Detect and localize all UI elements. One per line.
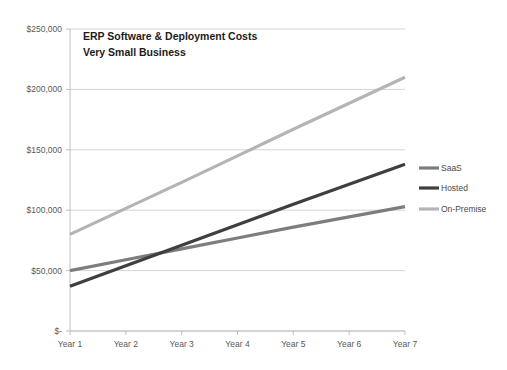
chart-title-block: ERP Software & Deployment Costs Very Sma… <box>83 30 257 58</box>
y-tick-marks-group <box>66 29 70 331</box>
y-axis-tick-label: $150,000 <box>27 145 63 155</box>
x-axis-tick-label: Year 6 <box>337 339 362 349</box>
x-axis-tick-label: Year 4 <box>225 339 250 349</box>
y-axis-tick-label: $250,000 <box>27 24 63 34</box>
line-chart: $-$50,000$100,000$150,000$200,000$250,00… <box>0 0 507 370</box>
x-axis-tick-labels: Year 1Year 2Year 3Year 4Year 5Year 6Year… <box>58 339 418 349</box>
series-line-on-premise <box>70 77 405 234</box>
legend-label-hosted: Hosted <box>441 183 468 193</box>
legend: SaaSHostedOn-Premise <box>419 163 487 214</box>
x-axis-tick-label: Year 1 <box>58 339 83 349</box>
chart-container: $-$50,000$100,000$150,000$200,000$250,00… <box>0 0 507 370</box>
gridlines-group <box>70 29 405 331</box>
y-axis-tick-labels: $-$50,000$100,000$150,000$200,000$250,00… <box>27 24 63 336</box>
chart-subtitle: Very Small Business <box>83 46 186 58</box>
y-axis-tick-label: $50,000 <box>31 266 62 276</box>
series-line-hosted <box>70 164 405 286</box>
series-group <box>70 77 405 286</box>
series-line-saas <box>70 207 405 271</box>
y-axis-tick-label: $- <box>54 326 62 336</box>
x-tick-marks-group <box>70 331 405 335</box>
legend-label-on-premise: On-Premise <box>441 204 487 214</box>
y-axis-tick-label: $100,000 <box>27 205 63 215</box>
x-axis-tick-label: Year 2 <box>114 339 139 349</box>
y-axis-tick-label: $200,000 <box>27 84 63 94</box>
x-axis-tick-label: Year 5 <box>281 339 306 349</box>
x-axis-tick-label: Year 7 <box>393 339 418 349</box>
chart-title: ERP Software & Deployment Costs <box>83 30 257 42</box>
x-axis-tick-label: Year 3 <box>170 339 195 349</box>
legend-label-saas: SaaS <box>441 163 462 173</box>
